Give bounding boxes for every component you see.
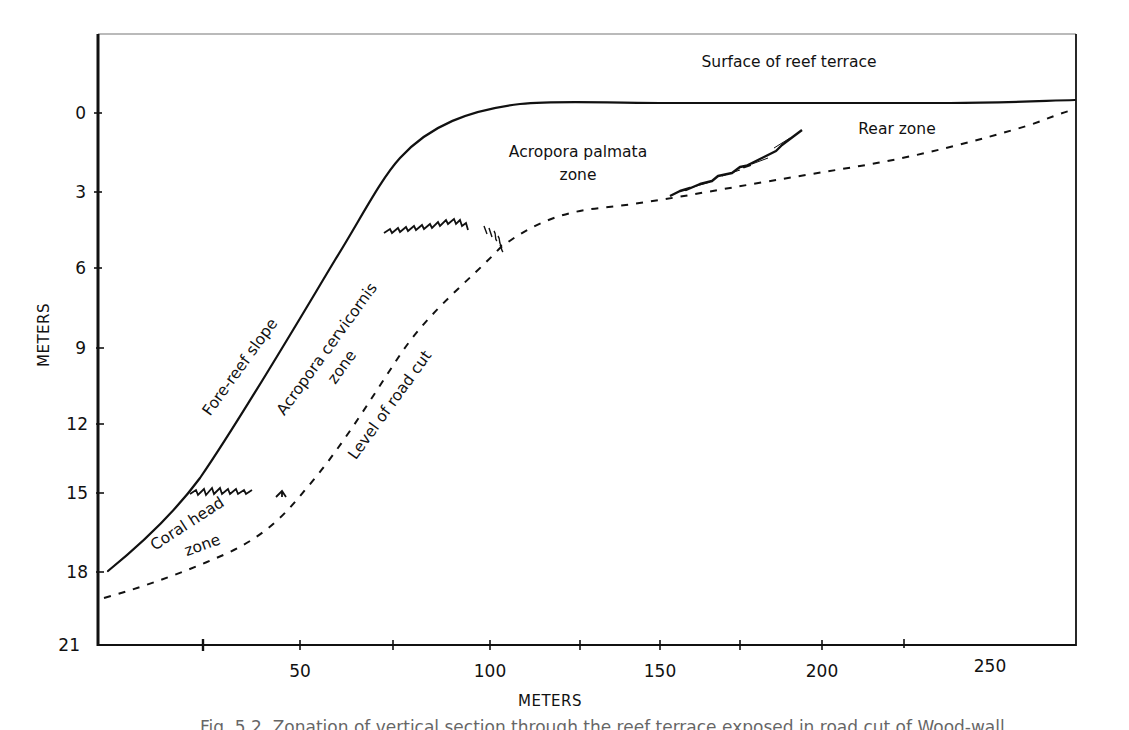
cervicornis-palmata-contact-hatch xyxy=(384,219,468,233)
y-axis-tick-labels: 0 3 6 9 12 15 18 21 xyxy=(58,103,88,655)
reef-profile-chart: 0 3 6 9 12 15 18 21 METERS 50 100 150 20… xyxy=(0,0,1129,730)
y-tick-label: 6 xyxy=(75,258,86,278)
reef-profile-figure: 0 3 6 9 12 15 18 21 METERS 50 100 150 20… xyxy=(0,0,1129,730)
coral-head-contact-hatch xyxy=(190,488,252,495)
y-tick-label: 0 xyxy=(75,103,86,123)
acropora-palmata-zone-label: zone xyxy=(560,166,597,184)
y-tick-label: 18 xyxy=(66,562,88,582)
y-tick-label: 3 xyxy=(75,182,86,202)
x-tick-label: 250 xyxy=(974,656,1006,676)
x-tick-label: 200 xyxy=(806,661,838,681)
x-axis-title: METERS xyxy=(518,692,582,710)
figure-caption-clipped: Fig. 5.2. Zonation of vertical section t… xyxy=(200,716,1100,730)
y-tick-label: 21 xyxy=(58,635,80,655)
rear-zone-label: Rear zone xyxy=(858,120,935,138)
coral-head-contact-mark xyxy=(276,491,286,497)
x-axis-tick-labels: 50 100 150 200 250 xyxy=(289,656,1006,681)
coral-head-zone-label: zone xyxy=(182,531,223,561)
y-axis-title: METERS xyxy=(35,303,53,367)
x-tick-label: 50 xyxy=(289,661,311,681)
fore-reef-slope-label: Fore-reef slope xyxy=(199,315,282,419)
x-tick-label: 100 xyxy=(474,661,506,681)
y-tick-label: 12 xyxy=(66,414,88,434)
level-of-road-cut-label: Level of road cut xyxy=(344,347,435,463)
y-tick-label: 9 xyxy=(75,338,86,358)
acropora-cervicornis-label: Acropora cervicornis xyxy=(273,280,381,419)
x-tick-label: 150 xyxy=(644,661,676,681)
acropora-palmata-label: Acropora palmata xyxy=(509,143,647,161)
surface-of-reef-terrace-label: Surface of reef terrace xyxy=(702,53,877,71)
palmata-rear-contact-hatch xyxy=(670,130,802,196)
y-tick-label: 15 xyxy=(66,483,88,503)
